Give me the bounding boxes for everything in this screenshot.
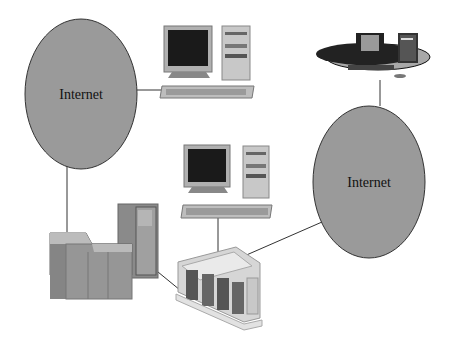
desktop-computer-top-icon <box>160 26 254 98</box>
edge-mainframe-server <box>158 272 180 290</box>
internet-right-label: Internet <box>347 175 391 190</box>
network-diagram: Internet Internet <box>0 0 456 348</box>
edge-server-internet-right <box>235 222 322 260</box>
desktop-computer-middle-icon <box>181 145 272 218</box>
server-rack-icon <box>176 247 262 330</box>
mainframe-icon <box>50 204 158 299</box>
internet-cloud-left: Internet <box>25 19 137 169</box>
internet-left-label: Internet <box>59 87 103 102</box>
internet-cloud-right: Internet <box>313 106 425 258</box>
workstation-platform-icon <box>316 33 430 78</box>
